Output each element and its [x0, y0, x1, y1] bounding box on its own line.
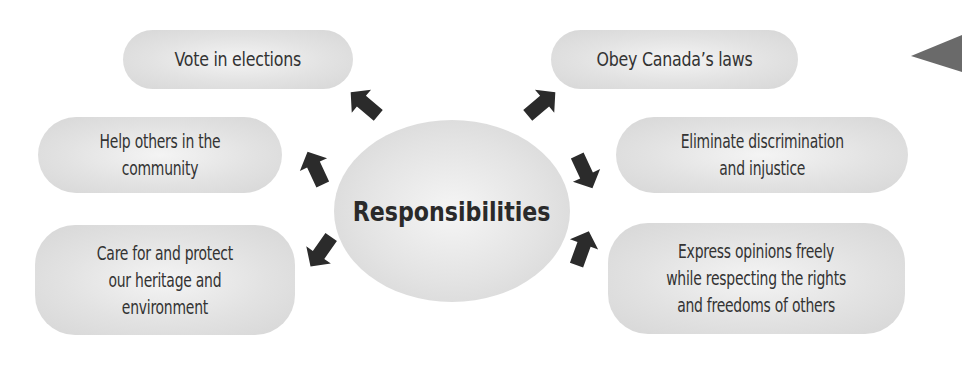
arrow-down-right-icon: [562, 226, 603, 270]
arrow-left-icon: [294, 146, 336, 191]
arrow-up-right-icon: [518, 81, 565, 127]
arrow-right-icon: [564, 149, 606, 194]
nav-triangle-left-icon[interactable]: [911, 35, 962, 72]
arrow-down-left-icon: [298, 228, 343, 275]
arrows-layer: [0, 0, 962, 368]
arrow-up-left-icon: [341, 81, 388, 127]
